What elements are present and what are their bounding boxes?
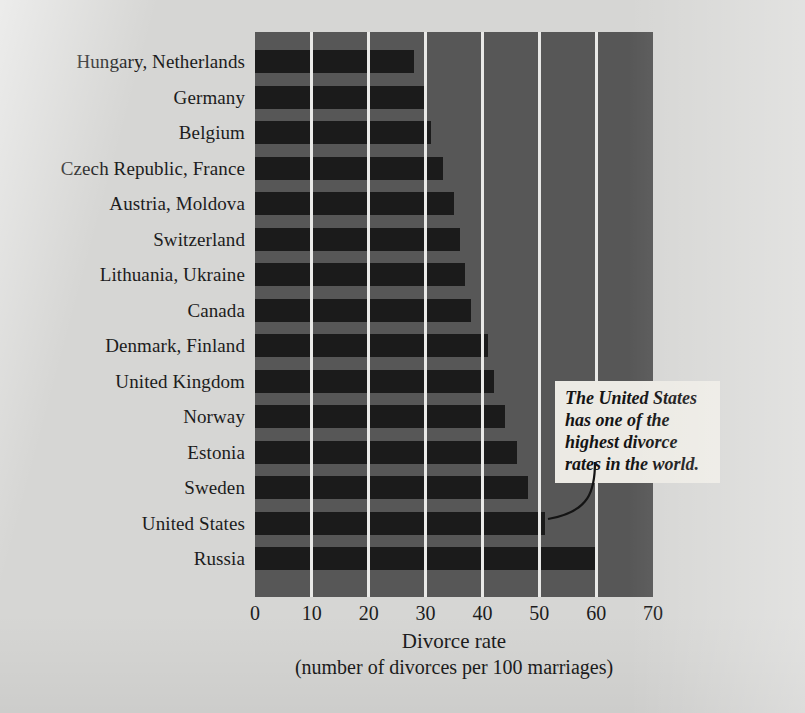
bar: [255, 86, 426, 109]
gridline-30: [424, 32, 427, 597]
bar: [255, 157, 443, 180]
y-axis-label: Hungary, Netherlands: [10, 50, 255, 73]
annotation-text: The United States has one of the highest…: [565, 387, 712, 475]
bar: [255, 228, 460, 251]
chart-figure: Hungary, NetherlandsGermanyBelgiumCzech …: [0, 0, 805, 713]
bar: [255, 370, 494, 393]
plot-area: [255, 32, 653, 597]
y-axis-label: United Kingdom: [10, 370, 255, 393]
y-axis-label: Norway: [10, 405, 255, 428]
x-axis-tick: 30: [416, 600, 436, 626]
y-axis-label: Belgium: [10, 121, 255, 144]
bar: [255, 121, 431, 144]
y-axis-label: United States: [10, 512, 255, 535]
x-axis-tick: 20: [359, 600, 379, 626]
bar: [255, 50, 414, 73]
y-axis-label: Russia: [10, 547, 255, 570]
y-axis-label: Switzerland: [10, 228, 255, 251]
gridline-40: [481, 32, 484, 597]
gridline-20: [367, 32, 370, 597]
y-axis-label: Lithuania, Ukraine: [10, 263, 255, 286]
y-axis-label: Canada: [10, 299, 255, 322]
gridline-50: [538, 32, 541, 597]
y-axis-label: Estonia: [10, 441, 255, 464]
bar: [255, 334, 488, 357]
x-axis-tick: 70: [643, 600, 663, 626]
gridline-10: [310, 32, 313, 597]
x-axis-tick: 40: [472, 600, 492, 626]
x-axis-title-group: Divorce rate (number of divorces per 100…: [255, 628, 653, 680]
bar: [255, 441, 517, 464]
x-axis-subtitle: (number of divorces per 100 marriages): [255, 654, 653, 680]
x-axis-tick: 10: [302, 600, 322, 626]
bar: [255, 299, 471, 322]
x-axis-tick: 50: [529, 600, 549, 626]
y-axis-label: Austria, Moldova: [10, 192, 255, 215]
x-axis-tick: 0: [250, 600, 260, 626]
y-axis-label: Germany: [10, 86, 255, 109]
x-axis-title: Divorce rate: [255, 628, 653, 654]
y-axis-label: Sweden: [10, 476, 255, 499]
annotation-callout: The United States has one of the highest…: [555, 381, 720, 483]
gridline-60: [595, 32, 598, 597]
x-axis-tick-labels: 010203040506070: [255, 600, 653, 628]
bar: [255, 263, 465, 286]
bar: [255, 476, 528, 499]
y-axis-label: Denmark, Finland: [10, 334, 255, 357]
y-axis-label: Czech Republic, France: [10, 157, 255, 180]
bar: [255, 512, 545, 535]
y-axis-category-labels: Hungary, NetherlandsGermanyBelgiumCzech …: [0, 32, 255, 597]
bar: [255, 405, 505, 428]
x-axis-tick: 60: [586, 600, 606, 626]
